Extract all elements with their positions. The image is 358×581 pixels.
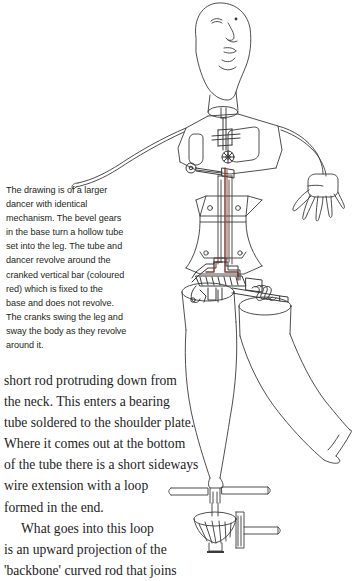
body-line: wire extension with a loop: [4, 475, 228, 496]
figure-caption: The drawing is of a larger dancer with i…: [6, 183, 158, 352]
hip-frame: [186, 222, 262, 274]
right-arm-wire: [278, 126, 326, 176]
caption-line: The cranks swing the leg and: [6, 310, 158, 324]
head-outline: [195, 3, 250, 100]
body-line: is an upward projection of the: [4, 539, 228, 560]
shoulder-plate: [178, 114, 282, 174]
caption-line: in the base turn a hollow tube: [6, 225, 158, 239]
caption-line: sway the body as they revolve: [6, 324, 158, 338]
body-line: short rod protruding down from: [4, 370, 228, 391]
caption-line: red) which is fixed to the: [6, 282, 158, 296]
body-line: 'backbone' curved rod that joins: [4, 560, 228, 581]
hip-axle-and-spring: [232, 285, 288, 302]
right-hand: [293, 174, 344, 221]
caption-line: set into the leg. The tube and: [6, 239, 158, 253]
waist-plate: [196, 196, 262, 222]
caption-line: cranked vertical bar (coloured: [6, 268, 158, 282]
caption-line: The drawing is of a larger: [6, 183, 158, 197]
neck-cylinder: [208, 92, 238, 118]
hollow-leg-tube-left: [182, 283, 236, 330]
body-line: tube soldered to the shoulder plate.: [4, 412, 228, 433]
caption-line: mechanism. The bevel gears: [6, 211, 158, 225]
cross-bearing-mechanism: [212, 118, 240, 163]
body-line: of the tube there is a short sideways: [4, 454, 228, 475]
coil-spring: [252, 285, 276, 300]
hip-crank-mechanism: [192, 258, 262, 292]
hollow-tube-central: [218, 176, 232, 264]
left-arm-wire: [72, 128, 186, 189]
body-line: What goes into this loop: [4, 518, 228, 539]
body-line: Where it comes out at the bottom: [4, 433, 228, 454]
shoulder-lever-link: [186, 163, 234, 178]
hollow-leg-tube-right: [239, 297, 291, 336]
body-line: the neck. This enters a bearing: [4, 391, 228, 412]
body-line: formed in the end.: [4, 497, 228, 518]
left-hip-linkage: [191, 286, 222, 303]
caption-line: base and does not revolve.: [6, 296, 158, 310]
caption-line: dancer revolve around the: [6, 253, 158, 267]
caption-line: around it.: [6, 338, 158, 352]
crank-handle: [236, 512, 280, 548]
raised-leg: [240, 334, 352, 463]
page-body-text: short rod protruding down from the neck.…: [4, 370, 228, 581]
caption-line: dancer with identical: [6, 197, 158, 211]
torso-frame-panels: [189, 127, 259, 165]
cranked-vertical-bar-red: [206, 168, 238, 280]
